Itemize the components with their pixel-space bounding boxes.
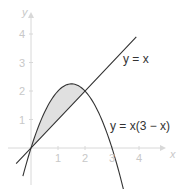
x-tick-label: 3 [109, 152, 115, 164]
x-tick-label: 2 [82, 152, 88, 164]
y-axis-arrow [28, 12, 34, 18]
chart: y = x y = x(3 − x) 12341234xy [0, 0, 180, 189]
shaded-region [31, 84, 85, 148]
y-tick-label: 1 [19, 114, 25, 126]
y-tick-label: 2 [19, 85, 25, 97]
line-y-equals-x [16, 37, 136, 164]
y-axis-label: y [21, 6, 29, 18]
label-y-equals-x: y = x [123, 52, 149, 66]
x-axis-arrow [160, 145, 166, 151]
y-tick-label: 4 [19, 28, 25, 40]
x-tick-label: 1 [55, 152, 61, 164]
x-axis-label: x [169, 148, 176, 160]
x-tick-label: 4 [136, 152, 142, 164]
label-parabola: y = x(3 − x) [110, 119, 170, 133]
y-tick-label: 3 [19, 57, 25, 69]
tick-labels: 12341234xy [19, 6, 176, 164]
